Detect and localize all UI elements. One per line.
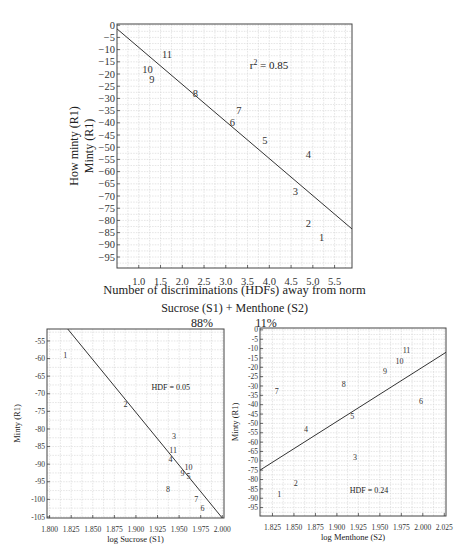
y-tick-label: -45 — [248, 410, 258, 419]
data-point-label: 8 — [193, 88, 198, 99]
y-tick-label: -95 — [248, 503, 258, 512]
y-tick-label: -25 — [248, 372, 258, 381]
sucrose-percent: 88% — [172, 316, 232, 331]
main-y-axis-label: Minty (R1) — [82, 119, 96, 173]
y-tick-label: -80 — [35, 425, 45, 434]
data-point-label: 5 — [187, 472, 191, 481]
x-tick-label: 1.950 — [171, 525, 188, 534]
menthone-x-axis-label: log Menthone (S2) — [321, 532, 385, 542]
y-tick-label: −30 — [99, 93, 115, 104]
y-tick-label: −90 — [99, 239, 115, 250]
x-tick-label: 1.950 — [371, 523, 388, 532]
y-tick-label: -20 — [248, 363, 258, 372]
data-point-label: 10 — [396, 357, 404, 366]
data-point-label: 2 — [124, 400, 128, 409]
y-tick-label: -10 — [248, 344, 258, 353]
data-point-label: 1 — [319, 232, 324, 243]
y-tick-label: -95 — [35, 477, 45, 486]
y-tick-label: −20 — [99, 69, 115, 80]
data-point-label: 4 — [168, 455, 172, 464]
y-tick-label: -15 — [248, 354, 258, 363]
data-point-label: 3 — [293, 186, 298, 197]
y-tick-label: -60 — [248, 438, 258, 447]
x-tick-label: 1.925 — [149, 525, 166, 534]
y-tick-label: −95 — [99, 252, 115, 263]
y-tick-label: -100 — [31, 495, 45, 504]
x-tick-label: 1.975 — [192, 525, 209, 534]
y-tick-label: -30 — [248, 382, 258, 391]
y-tick-label: -85 — [35, 442, 45, 451]
data-point-label: 1 — [277, 490, 281, 499]
y-tick-label: −35 — [99, 105, 115, 116]
sucrose-y-axis-label: Minty (R1) — [12, 404, 22, 443]
sucrose-gridlines — [47, 329, 224, 518]
y-tick-label: -65 — [248, 447, 258, 456]
y-tick-label: −50 — [99, 142, 115, 153]
y-tick-label: -65 — [35, 372, 45, 381]
x-tick-label: 1.875 — [307, 523, 324, 532]
y-tick-label: −65 — [99, 178, 115, 189]
y-tick-label: -60 — [35, 354, 45, 363]
y-tick-label: −15 — [99, 56, 115, 67]
data-point-label: 1 — [63, 351, 67, 360]
y-tick-label: -5 — [252, 335, 258, 344]
x-tick-label: 1.975 — [393, 523, 410, 532]
x-tick-label: 1.825 — [264, 523, 281, 532]
data-point-label: 3 — [353, 453, 357, 462]
y-tick-label: -105 — [31, 513, 45, 522]
menthone-y-axis-label: Minty (R1) — [230, 403, 240, 442]
main-x-axis-label: Number of discriminations (HDFs) away fr… — [103, 283, 366, 297]
y-tick-label: -70 — [248, 456, 258, 465]
y-tick-label: -55 — [35, 337, 45, 346]
y-tick-label: -90 — [35, 460, 45, 469]
data-point-label: 11 — [169, 446, 177, 455]
main-y-axis-label: How minty (R1) — [67, 106, 81, 185]
y-tick-label: 0 — [110, 20, 115, 31]
data-point-label: 7 — [275, 387, 279, 396]
y-tick-label: −10 — [99, 44, 115, 55]
data-point-label: 7 — [236, 105, 241, 116]
menthone-percent: 11% — [236, 316, 296, 331]
y-tick-label: −45 — [99, 130, 115, 141]
data-point-label: 5 — [350, 412, 354, 421]
data-point-label: 6 — [230, 117, 235, 128]
hdf-annotation: HDF = 0.05 — [151, 383, 190, 392]
x-tick-label: 2.025 — [436, 523, 453, 532]
x-tick-label: 1.800 — [41, 525, 58, 534]
data-point-label: 9 — [149, 74, 154, 85]
r-squared-annotation: r2 = 0.85 — [250, 58, 289, 71]
data-point-label: 10 — [142, 64, 153, 75]
x-tick-label: 1.925 — [350, 523, 367, 532]
y-tick-label: −25 — [99, 81, 115, 92]
sucrose-regression-line — [68, 329, 223, 518]
y-tick-label: -75 — [35, 407, 45, 416]
data-point-label: 7 — [194, 495, 198, 504]
menthone-data-points: 1234567891011 — [275, 346, 423, 499]
data-point-label: 11 — [162, 49, 172, 60]
y-tick-label: -80 — [248, 475, 258, 484]
data-point-label: 9 — [383, 367, 387, 376]
x-tick-label: 1.900 — [328, 523, 345, 532]
y-tick-label: −55 — [99, 154, 115, 165]
y-tick-label: −75 — [99, 203, 115, 214]
y-tick-label: −40 — [99, 117, 115, 128]
y-tick-label: −60 — [99, 166, 115, 177]
data-point-label: 8 — [166, 485, 170, 494]
x-tick-label: 1.850 — [84, 525, 101, 534]
y-tick-label: -85 — [248, 485, 258, 494]
menthone-chart: 1.8251.8501.8751.9001.9251.9501.9752.000… — [230, 325, 453, 542]
y-tick-label: −5 — [104, 32, 115, 43]
data-point-label: 2 — [294, 479, 298, 488]
sucrose-chart: 1.8001.8251.8501.8751.9001.9251.9501.975… — [12, 329, 231, 544]
sucrose-data-points: 1234567891011 — [63, 351, 204, 513]
y-tick-label: -40 — [248, 400, 258, 409]
x-tick-label: 1.825 — [63, 525, 80, 534]
data-point-label: 5 — [262, 135, 267, 146]
y-tick-label: −80 — [99, 215, 115, 226]
mixture-caption: Sucrose (S1) + Menthone (S2) — [0, 301, 469, 316]
y-tick-label: −70 — [99, 191, 115, 202]
main-plot-frame — [117, 24, 352, 268]
chart-canvas: 1.01.52.02.53.03.54.04.55.05.50−5−10−15−… — [0, 0, 469, 557]
y-tick-label: -70 — [35, 389, 45, 398]
data-point-label: 4 — [304, 425, 308, 434]
